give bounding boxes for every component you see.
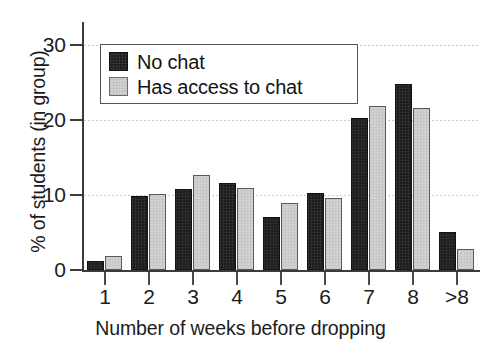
x-axis-tick-mark <box>412 272 414 285</box>
x-axis-tick-mark <box>192 272 194 285</box>
x-axis-tick-label: 8 <box>388 286 438 307</box>
bar-gt8-has-access-to-chat <box>457 249 474 270</box>
y-axis-tick-mark <box>70 269 82 271</box>
x-axis-title: Number of weeks before dropping <box>0 317 481 340</box>
x-axis-tick-mark <box>324 272 326 285</box>
bar-6-no-chat <box>307 193 324 270</box>
bar-chart-figure: % of students (in group) 0102030 1234567… <box>0 0 481 350</box>
x-axis-tick-label: >8 <box>432 286 481 307</box>
bar-4-no-chat <box>219 183 236 270</box>
bar-1-has-access-to-chat <box>105 256 122 270</box>
x-axis-tick-mark <box>148 272 150 285</box>
x-axis-tick-label: 1 <box>80 286 130 307</box>
bar-2-has-access-to-chat <box>149 194 166 270</box>
bar-6-has-access-to-chat <box>325 198 342 270</box>
x-axis-tick-label: 7 <box>344 286 394 307</box>
x-axis-tick-label: 3 <box>168 286 218 307</box>
x-axis-tick-label: 5 <box>256 286 306 307</box>
bar-4-has-access-to-chat <box>237 188 254 270</box>
bar-3-no-chat <box>175 189 192 270</box>
legend-item-has-access-to-chat: Has access to chat <box>109 74 349 99</box>
bar-7-has-access-to-chat <box>369 106 386 270</box>
bar-8-no-chat <box>395 84 412 270</box>
y-axis-tick-mark <box>70 194 82 196</box>
y-axis-title: % of students (in group) <box>27 22 50 282</box>
x-axis-tick-label: 6 <box>300 286 350 307</box>
legend-label-no-chat: No chat <box>137 52 205 72</box>
y-axis-tick-label: 10 <box>0 184 66 205</box>
legend-light-swatch-icon <box>109 77 128 96</box>
y-axis-tick-mark <box>70 119 82 121</box>
x-axis-tick-mark <box>456 272 458 285</box>
legend-item-no-chat: No chat <box>109 49 349 74</box>
legend-dark-swatch-icon <box>109 52 128 71</box>
y-axis-tick-label: 30 <box>0 34 66 55</box>
legend-label-has-access-to-chat: Has access to chat <box>137 77 302 97</box>
y-axis-tick-mark <box>70 44 82 46</box>
bar-8-has-access-to-chat <box>413 108 430 270</box>
bar-5-no-chat <box>263 217 280 270</box>
x-axis-tick-label: 2 <box>124 286 174 307</box>
chart-legend: No chat Has access to chat <box>100 44 358 104</box>
x-axis-tick-label: 4 <box>212 286 262 307</box>
y-axis-tick-label: 20 <box>0 109 66 130</box>
bar-3-has-access-to-chat <box>193 175 210 270</box>
bar-1-no-chat <box>87 261 104 270</box>
x-axis-tick-mark <box>104 272 106 285</box>
bar-7-no-chat <box>351 118 368 270</box>
bar-gt8-no-chat <box>439 232 456 270</box>
bar-5-has-access-to-chat <box>281 203 298 270</box>
x-axis-tick-mark <box>236 272 238 285</box>
x-axis-tick-mark <box>280 272 282 285</box>
x-axis-tick-mark <box>368 272 370 285</box>
bar-2-no-chat <box>131 196 148 270</box>
y-axis-tick-label: 0 <box>0 259 66 280</box>
